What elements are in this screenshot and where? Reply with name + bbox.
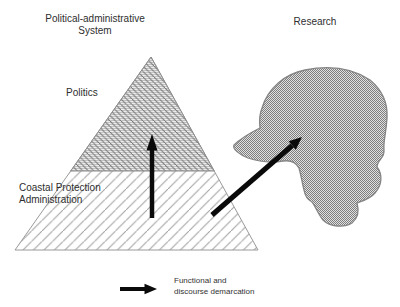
political-system-title-line2: System [40, 25, 150, 37]
triangle-politics-region [71, 57, 215, 171]
legend-label: Functional and discourse demarcation [174, 276, 254, 297]
legend-label-line1: Functional and [174, 276, 254, 287]
legend-arrow-icon [120, 284, 157, 294]
political-system-title-line1: Political-administrative [40, 13, 150, 25]
research-title: Research [280, 16, 350, 28]
political-system-title: Political-administrative System [40, 13, 150, 37]
coastal-protection-label-line2: Administration [19, 194, 101, 206]
coastal-protection-label-line1: Coastal Protection [19, 182, 101, 194]
research-blob [234, 68, 387, 226]
diagram-canvas [0, 0, 400, 307]
coastal-protection-label: Coastal Protection Administration [19, 182, 101, 206]
diagram-figure: Political-administrative System Research… [0, 0, 400, 307]
legend-label-line2: discourse demarcation [174, 287, 254, 298]
politics-label: Politics [66, 87, 98, 99]
